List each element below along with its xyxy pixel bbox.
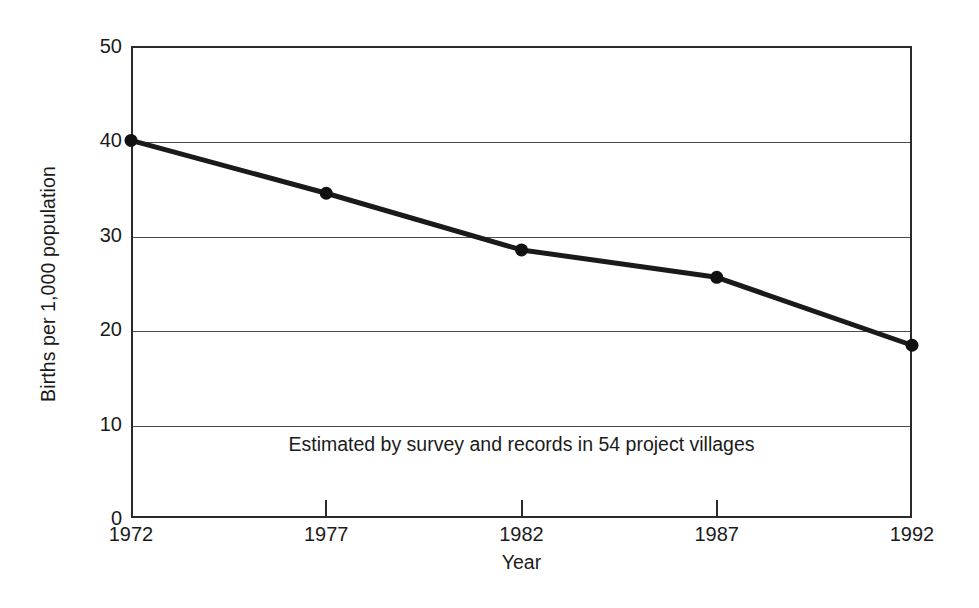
data-point-1972 bbox=[125, 134, 138, 147]
data-point-1987 bbox=[710, 271, 723, 284]
data-point-markers bbox=[125, 134, 919, 352]
x-axis-title: Year bbox=[131, 551, 912, 574]
y-axis-tick-labels: 01020304050 bbox=[0, 46, 131, 518]
x-tick-mark-1982 bbox=[521, 500, 523, 518]
y-tick-label-10: 10 bbox=[11, 412, 131, 435]
y-tick-label-20: 20 bbox=[11, 318, 131, 341]
x-tick-label-1982: 1982 bbox=[452, 523, 592, 546]
data-point-1982 bbox=[515, 243, 528, 256]
x-tick-label-1972: 1972 bbox=[61, 523, 201, 546]
x-tick-mark-1977 bbox=[325, 500, 327, 518]
plot-annotation: Estimated by survey and records in 54 pr… bbox=[131, 433, 912, 456]
x-tick-label-1992: 1992 bbox=[842, 523, 979, 546]
y-tick-label-30: 30 bbox=[11, 223, 131, 246]
data-point-1977 bbox=[320, 187, 333, 200]
data-point-1992 bbox=[906, 339, 919, 352]
y-tick-label-40: 40 bbox=[11, 129, 131, 152]
x-tick-label-1977: 1977 bbox=[256, 523, 396, 546]
line-series-birth-rate bbox=[131, 140, 912, 345]
chart-figure: Births per 1,000 population 01020304050 … bbox=[0, 0, 979, 608]
y-tick-label-50: 50 bbox=[11, 35, 131, 58]
x-tick-mark-1987 bbox=[716, 500, 718, 518]
x-tick-label-1987: 1987 bbox=[647, 523, 787, 546]
